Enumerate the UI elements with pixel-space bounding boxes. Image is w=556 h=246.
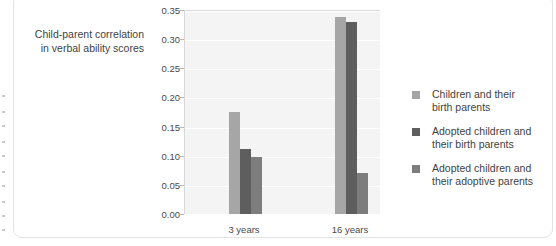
y-axis-tick-label: 0.30 <box>140 34 180 45</box>
plot-area <box>184 10 380 214</box>
bar <box>335 17 346 214</box>
legend-item-label-line-1: Children and their <box>432 88 552 101</box>
x-axis-category-label: 3 years <box>228 224 259 235</box>
y-axis-tick-label: 0.15 <box>140 121 180 132</box>
y-axis-tick-label: 0.05 <box>140 179 180 190</box>
legend-color-swatch <box>412 165 420 173</box>
y-axis-tick-mark <box>179 68 184 69</box>
legend-item: Adopted children andtheir birth parents <box>412 125 552 151</box>
legend-color-swatch <box>412 128 420 136</box>
x-axis-category-label: 16 years <box>332 224 368 235</box>
bar <box>229 112 240 214</box>
y-axis-tick-label: 0.20 <box>140 92 180 103</box>
legend-item-label-line-2: their birth parents <box>432 138 552 151</box>
legend-item-label-line-2: their adoptive parents <box>432 175 552 188</box>
legend-item-label-line-1: Adopted children and <box>432 162 552 175</box>
y-axis-tick-label: 0.00 <box>140 209 180 220</box>
chart-legend: Children and theirbirth parentsAdopted c… <box>412 88 552 199</box>
y-axis-tick-mark <box>179 39 184 40</box>
bar <box>240 149 251 214</box>
y-axis-tick-mark <box>179 127 184 128</box>
y-axis-tick-labels: 0.000.050.100.150.200.250.300.35 <box>138 10 180 214</box>
legend-color-swatch <box>412 91 420 99</box>
y-axis-tick-mark <box>179 10 184 11</box>
legend-item: Adopted children andtheir adoptive paren… <box>412 162 552 188</box>
y-axis-tick-label: 0.25 <box>140 63 180 74</box>
y-axis-tick-mark <box>179 185 184 186</box>
bar <box>357 173 368 214</box>
legend-item: Children and theirbirth parents <box>412 88 552 114</box>
bar <box>346 22 357 214</box>
y-axis-tick-mark <box>179 214 184 215</box>
y-axis-tick-mark <box>179 97 184 98</box>
bar <box>251 157 262 214</box>
y-axis-tick-label: 0.10 <box>140 150 180 161</box>
bar-chart: 0.000.050.100.150.200.250.300.35 3 years… <box>0 0 400 246</box>
y-axis-tick-mark <box>179 156 184 157</box>
legend-item-label-line-2: birth parents <box>432 101 552 114</box>
legend-item-label-line-1: Adopted children and <box>432 125 552 138</box>
gridline <box>185 11 380 12</box>
y-axis-tick-label: 0.35 <box>140 5 180 16</box>
